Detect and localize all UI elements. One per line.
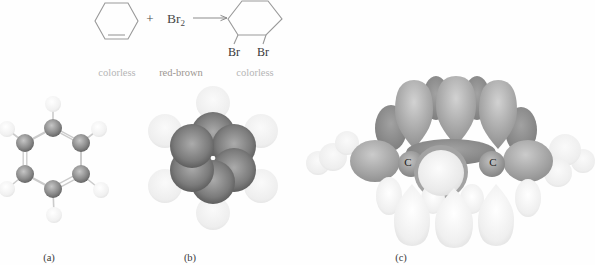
chemistry-figure: + Br2 Br Br colorless red-brown colorles… xyxy=(0,0,595,265)
panel-a-label: (a) xyxy=(43,252,55,264)
p-orbital-bottom-lobe xyxy=(478,184,514,246)
cyclohexene-structure xyxy=(95,3,138,39)
caption-reagent: red-brown xyxy=(159,67,203,78)
hydrogen-atom xyxy=(91,121,107,137)
plus-sign: + xyxy=(146,11,153,26)
carbon-atom xyxy=(72,165,90,183)
hydrogen-atom xyxy=(46,207,62,223)
front-hydrogen-sphere xyxy=(418,150,464,196)
bromine-formula: Br2 xyxy=(167,11,185,28)
ball-and-stick-model xyxy=(0,96,109,223)
carbon-label-right: C xyxy=(489,156,496,168)
figure-artwork: + Br2 Br Br colorless red-brown colorles… xyxy=(0,0,595,265)
hydrogen-atoms xyxy=(0,96,109,223)
space-filling-model xyxy=(148,86,278,230)
hydrogen-spheres xyxy=(148,86,278,230)
carbon-atom xyxy=(16,165,34,183)
br-label-left: Br xyxy=(228,45,240,59)
hydrogen-atom xyxy=(93,182,109,198)
carbon-atom xyxy=(16,134,34,152)
reaction-arrow xyxy=(193,15,227,20)
carbon-sphere xyxy=(170,124,214,168)
caption-product: colorless xyxy=(236,67,273,78)
carbon-atom xyxy=(44,180,62,198)
sigma-bond-lobe xyxy=(503,140,553,182)
carbon-label-left: C xyxy=(404,156,411,168)
carbon-atom xyxy=(72,134,90,152)
sigma-bond-lobe xyxy=(350,140,400,182)
carbon-atom xyxy=(44,119,62,137)
caption-reactant: colorless xyxy=(98,67,135,78)
orbital-model: C C xyxy=(306,76,595,248)
hydrogen-atom xyxy=(45,96,61,112)
panel-b-label: (b) xyxy=(184,252,197,264)
br-label-right: Br xyxy=(257,45,269,59)
p-orbital-top-lobe xyxy=(436,76,476,146)
br-bond-right xyxy=(263,35,266,44)
carbon-spheres xyxy=(170,112,256,204)
hydrogen-atom xyxy=(0,121,15,137)
reaction-scheme: + Br2 Br Br colorless red-brown colorles… xyxy=(95,1,282,78)
p-orbital-bottom-lobe-back xyxy=(515,179,541,217)
dibromocyclohexane-structure xyxy=(228,1,282,44)
panel-c-label: (c) xyxy=(395,252,407,264)
br-bond-left xyxy=(234,35,238,44)
